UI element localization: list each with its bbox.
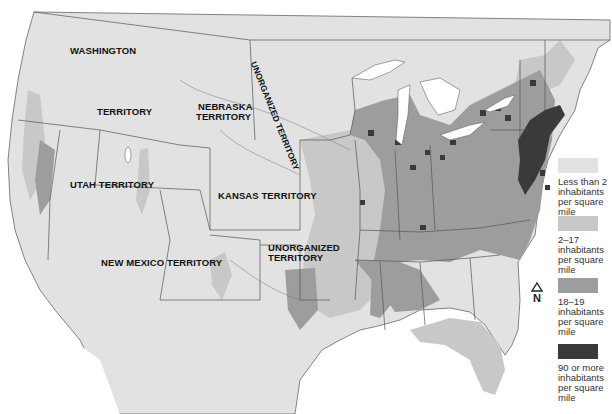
legend-swatch — [558, 344, 598, 359]
legend-swatch — [558, 158, 598, 173]
legend-item-lt2: Less than 2 inhabitants per square mile — [558, 158, 612, 217]
north-arrow-icon — [531, 282, 543, 292]
legend-swatch — [558, 216, 598, 231]
legend-label: 18–19 inhabitants per square mile — [558, 297, 612, 337]
legend-swatch — [558, 278, 598, 293]
legend-item-90-plus: 90 or more inhabitants per square mile — [558, 344, 612, 403]
label-territory: TERRITORY — [97, 107, 152, 117]
legend-label: 90 or more inhabitants per square mile — [558, 363, 612, 403]
legend-item-2-17: 2–17 inhabitants per square mile — [558, 216, 612, 275]
label-washington: WASHINGTON — [70, 46, 136, 56]
legend-label: Less than 2 inhabitants per square mile — [558, 177, 612, 217]
compass-label: N — [530, 292, 544, 304]
label-unorganized-south-territory: TERRITORY — [268, 253, 323, 263]
compass: N — [530, 282, 544, 304]
us-population-density-map — [0, 0, 612, 414]
legend-label: 2–17 inhabitants per square mile — [558, 235, 612, 275]
label-utah: UTAH TERRITORY — [70, 180, 154, 190]
label-kansas: KANSAS TERRITORY — [218, 191, 317, 201]
label-nebraska-territory: TERRITORY — [196, 112, 251, 122]
legend-item-18-19: 18–19 inhabitants per square mile — [558, 278, 612, 337]
label-new-mexico: NEW MEXICO TERRITORY — [101, 258, 222, 268]
